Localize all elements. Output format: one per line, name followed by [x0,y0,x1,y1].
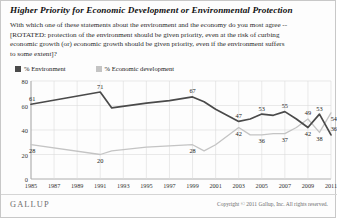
x-tick-2005: 2005 [256,182,268,189]
legend-swatch-environment [15,66,21,72]
svg-text:47: 47 [236,112,242,119]
legend-swatch-economic-development [96,66,102,72]
x-tick-2011: 2011 [325,182,337,189]
x-tick-2001: 2001 [209,182,221,189]
svg-text:53: 53 [259,105,265,112]
x-tick-1995: 1995 [140,182,152,189]
svg-text:61: 61 [29,95,35,102]
legend-label-economic-development: % Economic development [105,65,175,72]
x-tick-1989: 1989 [71,182,83,189]
svg-text:67: 67 [189,87,195,94]
svg-text:55: 55 [282,102,288,109]
svg-text:71: 71 [97,83,103,90]
x-tick-2007: 2007 [279,182,291,189]
gallup-logo: GALLUP [10,200,50,209]
question-line-4: to some extent]? [10,50,330,60]
svg-text:53: 53 [316,105,322,112]
y-tick-80: 80 [14,78,28,85]
plot-area: 020406080 617167475355495336282028423637… [1,75,337,187]
x-tick-2003: 2003 [233,182,245,189]
svg-text:54: 54 [331,115,337,122]
x-tick-1999: 1999 [186,182,198,189]
x-tick-1985: 1985 [25,182,37,189]
svg-text:20: 20 [97,157,103,164]
line-chart-svg: 617167475355495336282028423637423854 [1,75,337,187]
chart-footer: GALLUP Copyright © 2011 Gallup, Inc. All… [1,194,337,217]
legend-item-economic-development: % Economic development [96,65,175,72]
y-tick-40: 40 [14,127,28,134]
svg-text:38: 38 [316,135,322,142]
x-tick-1987: 1987 [48,182,60,189]
svg-text:36: 36 [331,125,337,132]
x-tick-2009: 2009 [302,182,314,189]
svg-text:42: 42 [236,130,242,137]
svg-text:37: 37 [282,136,288,143]
x-tick-1997: 1997 [163,182,175,189]
legend-label-environment: % Environment [24,65,66,72]
copyright-text: Copyright © 2011 Gallup, Inc. All rights… [217,201,328,207]
legend-item-environment: % Environment [15,65,66,72]
x-tick-1993: 1993 [117,182,129,189]
svg-text:28: 28 [189,147,195,154]
svg-text:49: 49 [305,109,311,116]
question-line-2: [ROTATED: protection of the environment … [10,31,330,41]
y-tick-60: 60 [14,102,28,109]
svg-text:28: 28 [29,147,35,154]
question-text: With which one of these statements about… [10,21,330,59]
chart-legend: % Environment % Economic development [15,65,174,72]
y-tick-20: 20 [14,151,28,158]
svg-text:36: 36 [259,137,265,144]
page-title: Higher Priority for Economic Development… [10,5,328,15]
question-line-3: economic growth (or) economic growth sho… [10,40,330,50]
x-tick-1991: 1991 [94,182,106,189]
svg-text:42: 42 [305,130,311,137]
question-line-1: With which one of these statements about… [10,21,330,31]
x-axis-labels: 1985198719891991199319951997199920012003… [1,182,337,194]
